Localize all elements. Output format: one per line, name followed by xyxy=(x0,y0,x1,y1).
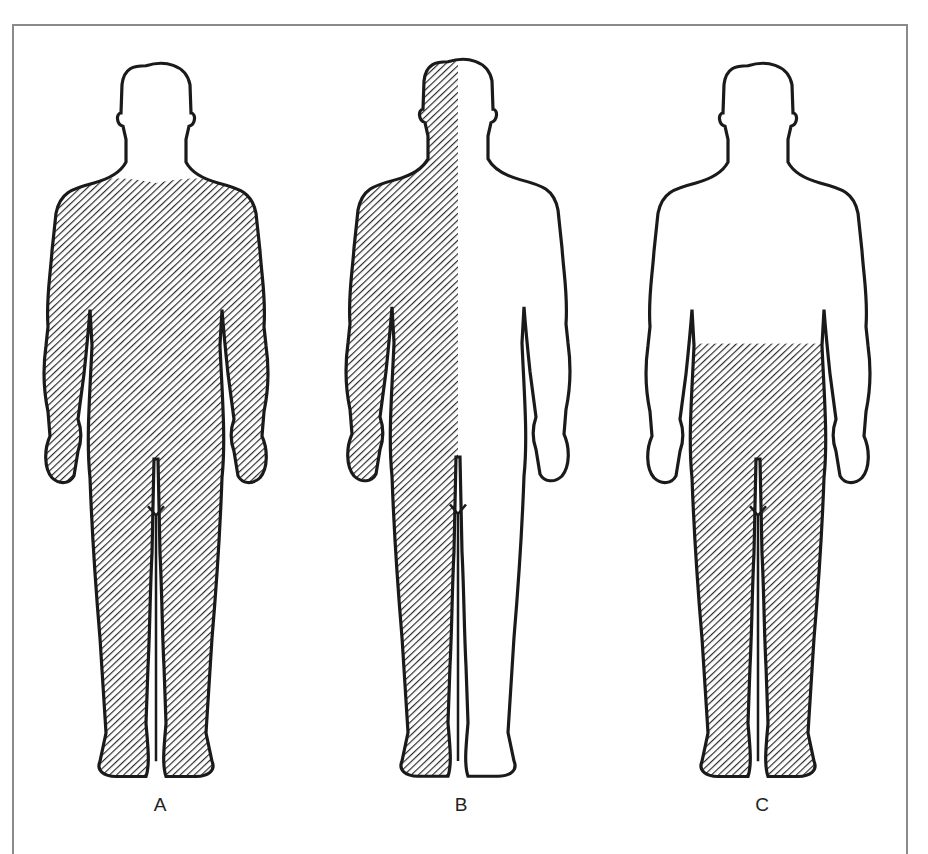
panel-label-c: C xyxy=(742,794,782,816)
figure-a xyxy=(16,63,296,818)
panel-label-b: B xyxy=(441,794,481,816)
figure-c xyxy=(646,63,870,825)
panel-label-a: A xyxy=(140,794,180,816)
figure-b xyxy=(318,49,570,828)
